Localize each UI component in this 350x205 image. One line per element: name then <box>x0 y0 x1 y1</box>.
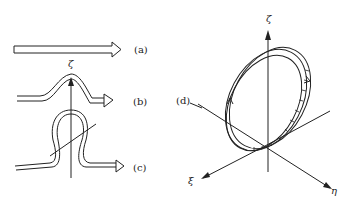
tube-bump-b <box>17 74 113 107</box>
label-c: (c) <box>133 162 147 173</box>
vortex-tube-diagram: (a) ζ (b) (c) ζ ξ η <box>0 0 350 205</box>
label-a: (a) <box>134 44 148 55</box>
left-zeta-axis <box>68 77 74 178</box>
eta-label: η <box>331 185 337 196</box>
label-d: (d) <box>176 95 190 106</box>
tube-straight-a <box>14 42 121 57</box>
label-b: (b) <box>133 96 147 107</box>
left-zeta-label: ζ <box>68 58 74 69</box>
right-zeta-label: ζ <box>266 13 272 24</box>
tube-loop-c <box>15 110 124 172</box>
right-axes <box>198 30 332 189</box>
xi-label: ξ <box>188 175 194 186</box>
vortex-ring-d <box>190 33 327 164</box>
